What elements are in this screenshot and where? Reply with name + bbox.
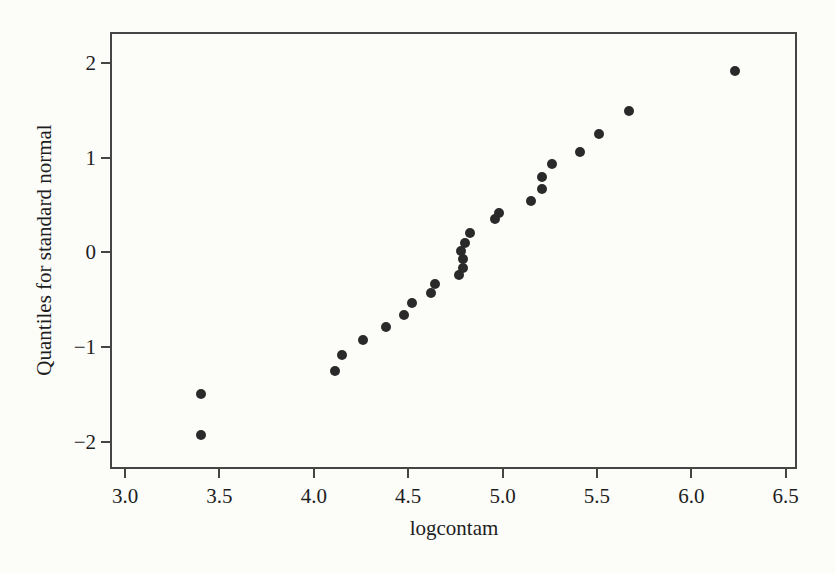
data-point (465, 228, 475, 238)
data-point (399, 310, 409, 320)
qq-plot-figure: Quantiles for standard normal 3.03.54.04… (0, 0, 835, 574)
x-tick-mark (785, 469, 787, 478)
x-tick-label: 5.0 (489, 484, 515, 508)
x-tick-mark (218, 469, 220, 478)
y-tick-label: 1 (86, 146, 97, 170)
data-point (358, 335, 368, 345)
data-point (575, 147, 585, 157)
x-tick-label: 5.5 (584, 484, 610, 508)
y-tick-label: −2 (74, 430, 96, 454)
data-point (537, 184, 547, 194)
y-tick-label: −1 (74, 335, 96, 359)
data-point (730, 66, 740, 76)
x-tick-mark (124, 469, 126, 478)
data-point (458, 254, 468, 264)
y-tick-mark (101, 251, 110, 253)
y-tick-mark (101, 441, 110, 443)
x-tick-mark (690, 469, 692, 478)
x-tick-label: 3.0 (112, 484, 138, 508)
data-point (547, 159, 557, 169)
x-tick-mark (407, 469, 409, 478)
x-tick-label: 4.5 (395, 484, 421, 508)
data-point (196, 389, 206, 399)
x-tick-label: 6.0 (678, 484, 704, 508)
data-point (458, 263, 468, 273)
data-point (624, 106, 634, 116)
data-point (460, 238, 470, 248)
y-axis-label: Quantiles for standard normal (32, 124, 57, 375)
data-point (407, 298, 417, 308)
data-point (196, 430, 206, 440)
data-point (426, 288, 436, 298)
x-tick-label: 3.5 (206, 484, 232, 508)
x-tick-mark (502, 469, 504, 478)
y-tick-label: 0 (86, 240, 97, 264)
data-point (494, 208, 504, 218)
x-tick-label: 6.5 (773, 484, 799, 508)
data-point (337, 350, 347, 360)
x-tick-mark (313, 469, 315, 478)
y-tick-mark (101, 346, 110, 348)
data-point (526, 196, 536, 206)
plot-area: 3.03.54.04.55.05.56.06.5210−1−2 (110, 32, 797, 469)
data-point (537, 172, 547, 182)
y-tick-mark (101, 62, 110, 64)
x-tick-mark (596, 469, 598, 478)
data-point (381, 322, 391, 332)
y-tick-mark (101, 157, 110, 159)
x-tick-label: 4.0 (301, 484, 327, 508)
data-point (594, 129, 604, 139)
plot-layer: 3.03.54.04.55.05.56.06.5210−1−2 (110, 32, 797, 469)
y-tick-label: 2 (86, 51, 97, 75)
data-point (430, 279, 440, 289)
data-point (330, 366, 340, 376)
x-axis-label: logcontam (410, 516, 499, 541)
